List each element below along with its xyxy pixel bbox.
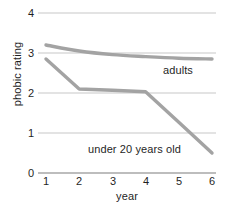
x-axis-title: year [38, 190, 216, 202]
x-tick-label-5: 5 [169, 176, 189, 187]
x-tick-label-4: 4 [136, 176, 156, 187]
x-tick-label-6: 6 [202, 176, 222, 187]
series-annotation-adults: adults [163, 64, 193, 76]
series-annotation-under-20-years-old: under 20 years old [88, 143, 181, 155]
x-tick-label-1: 1 [36, 176, 56, 187]
phobic-rating-line-chart: phobic rating 4 3 2 1 0 1 2 3 4 5 6 year [0, 0, 229, 209]
x-tick-label-2: 2 [69, 176, 89, 187]
x-tick-label-3: 3 [103, 176, 123, 187]
series-line-adults [46, 45, 212, 59]
